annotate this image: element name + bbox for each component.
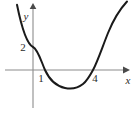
y-axis-arrowhead: [30, 3, 37, 9]
graph-canvas: 2 1 4 y x: [0, 0, 138, 115]
parabola-figure: 2 1 4 y x: [0, 0, 138, 115]
y-axis-label: y: [23, 10, 29, 22]
y-tick-label-2: 2: [20, 41, 26, 53]
x-tick-label-1: 1: [38, 72, 44, 84]
x-tick-label-4: 4: [92, 72, 98, 84]
x-axis-arrowhead: [123, 67, 130, 74]
x-axis-label: x: [125, 74, 131, 86]
